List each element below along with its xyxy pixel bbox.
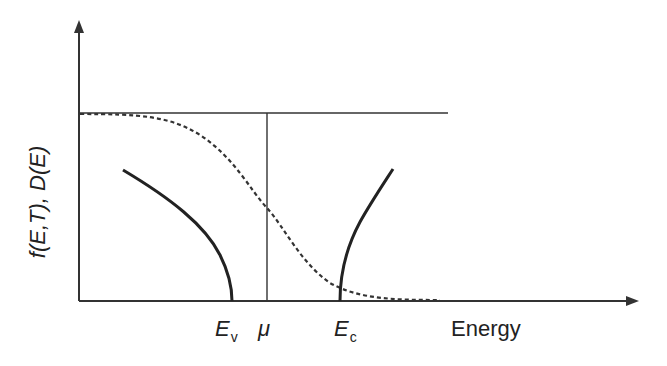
fermi-dirac-curve — [80, 114, 440, 300]
x-axis-arrow-icon — [626, 296, 639, 306]
ev-subscript: v — [231, 329, 238, 345]
band-diagram — [0, 0, 667, 366]
ec-subscript: c — [350, 329, 357, 345]
y-axis-arrow-icon — [74, 20, 84, 33]
ec-label: Ec — [334, 316, 357, 342]
ev-label: Ev — [215, 316, 238, 342]
ev-main: E — [215, 316, 230, 341]
valence-band-dos-curve — [123, 170, 232, 301]
x-axis-label: Energy — [451, 316, 521, 342]
ec-main: E — [334, 316, 349, 341]
conduction-band-dos-curve — [340, 169, 393, 301]
y-axis-label: f(E,T), D(E) — [25, 146, 51, 258]
mu-label: μ — [258, 316, 270, 342]
